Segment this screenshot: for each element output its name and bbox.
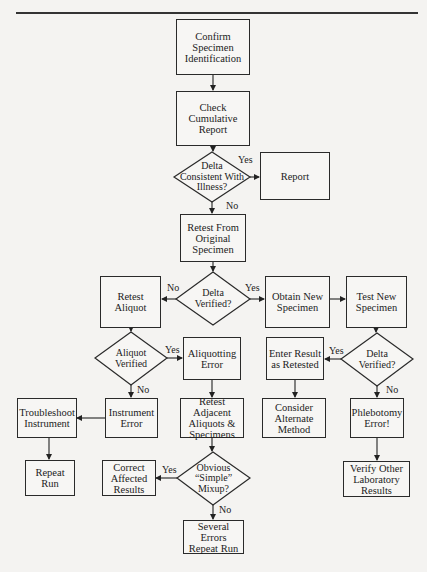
node-check-cumulative-report: Check Cumulative Report (176, 91, 250, 146)
node-aliquotting-error: Aliquotting Error (183, 337, 241, 380)
decision-obvious-simple-mixup: Obvious “Simple” Mixup? (177, 452, 250, 505)
decision-aliquot-verified: Aliquot Verified (95, 332, 167, 385)
label-yes-obtain-new: Yes (245, 283, 260, 293)
node-report: Report (260, 152, 330, 200)
node-enter-result-as-retested: Enter Result as Retested (266, 337, 324, 380)
node-troubleshoot-instrument: Troubleshoot Instrument (17, 398, 77, 438)
node-repeat-run: Repeat Run (25, 460, 75, 496)
label-yes-report: Yes (238, 155, 253, 165)
label-no-phlebotomy: No (386, 385, 398, 395)
decision-delta-verified-1: Delta Verified? (176, 272, 250, 325)
label-no-retest-aliquot: No (167, 283, 179, 293)
node-instrument-error: Instrument Error (105, 398, 158, 438)
node-confirm-specimen-identification: Confirm Specimen Identification (176, 19, 250, 75)
label-no-instrument-error: No (137, 385, 149, 395)
node-test-new-specimen: Test New Specimen (346, 276, 407, 328)
label-yes-enter-result: Yes (329, 346, 344, 356)
decision-delta-verified-2: Delta Verified? (341, 333, 413, 386)
label-no-retest-original: No (226, 201, 238, 211)
label-yes-aliquotting-error: Yes (165, 345, 180, 355)
label-no-several-errors: No (219, 505, 231, 515)
node-verify-other-laboratory-results: Verify Other Laboratory Results (343, 461, 410, 497)
node-correct-affected-results: Correct Affected Results (102, 460, 156, 496)
node-several-errors-repeat-run: Several Errors Repeat Run (183, 520, 244, 554)
node-retest-original-specimen: Retest From Original Specimen (180, 214, 246, 262)
node-phlebotomy-error: Phlebotomy Error! (350, 398, 404, 438)
node-obtain-new-specimen: Obtain New Specimen (265, 276, 330, 328)
node-retest-adjacent-aliquots: Retest Adjacent Aliquots & Specimens (180, 398, 244, 438)
label-yes-correct-affected: Yes (162, 465, 177, 475)
node-retest-aliquot: Retest Aliquot (100, 276, 161, 328)
node-consider-alternate-method: Consider Alternate Method (262, 398, 326, 438)
